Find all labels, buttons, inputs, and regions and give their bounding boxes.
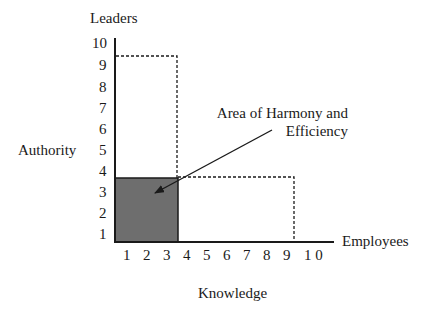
annotation-label: Area of Harmony and Efficiency [212,104,348,140]
leaders-dashed-boundary [116,56,177,178]
annotation-line-2: Efficiency [212,122,348,140]
harmony-area [115,178,178,242]
annotation-line-1: Area of Harmony and [212,104,348,122]
employees-dashed-boundary [178,177,294,242]
diagram-graphics [0,0,426,315]
